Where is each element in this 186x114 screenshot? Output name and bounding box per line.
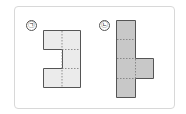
- shape-b: [117, 21, 154, 98]
- nets-diagram: [0, 0, 186, 114]
- shape-a: [44, 31, 81, 88]
